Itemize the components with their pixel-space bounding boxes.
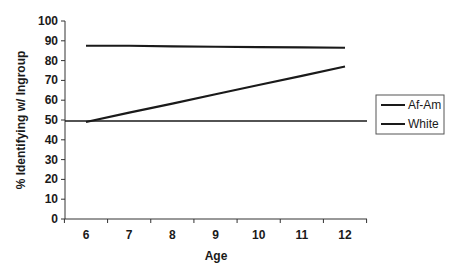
y-tick-label: 60 bbox=[45, 93, 59, 107]
series-lines bbox=[86, 46, 345, 122]
y-axis-title: % Identifying w/ Ingroup bbox=[14, 51, 28, 190]
y-tick-label: 0 bbox=[51, 212, 58, 226]
y-tick-label: 70 bbox=[45, 73, 59, 87]
y-tick-label: 80 bbox=[45, 54, 59, 68]
y-tick-label: 40 bbox=[45, 133, 59, 147]
y-tick-label: 50 bbox=[45, 113, 59, 127]
legend-label-af-am: Af-Am bbox=[408, 98, 441, 112]
series-line-af-am bbox=[86, 67, 345, 122]
series-line-white bbox=[86, 46, 345, 48]
x-tick-label: 11 bbox=[295, 228, 308, 242]
x-tick-label: 9 bbox=[212, 228, 219, 242]
x-tick-label: 7 bbox=[126, 228, 133, 242]
x-tick-label: 10 bbox=[252, 228, 266, 242]
y-axis: 0102030405060708090100 bbox=[38, 14, 65, 226]
legend: Af-Am White bbox=[376, 95, 444, 134]
legend-label-white: White bbox=[408, 117, 439, 131]
x-axis-title: Age bbox=[205, 249, 228, 263]
y-tick-label: 90 bbox=[45, 34, 59, 48]
x-tick-label: 8 bbox=[169, 228, 176, 242]
y-tick-label: 20 bbox=[45, 172, 59, 186]
y-tick-label: 10 bbox=[45, 192, 59, 206]
x-tick-label: 12 bbox=[338, 228, 352, 242]
x-tick-label: 6 bbox=[83, 228, 90, 242]
y-tick-label: 100 bbox=[38, 14, 58, 28]
x-axis: 6789101112 bbox=[64, 219, 367, 242]
line-chart: 0102030405060708090100 6789101112 % Iden… bbox=[0, 0, 464, 276]
y-tick-label: 30 bbox=[45, 153, 59, 167]
